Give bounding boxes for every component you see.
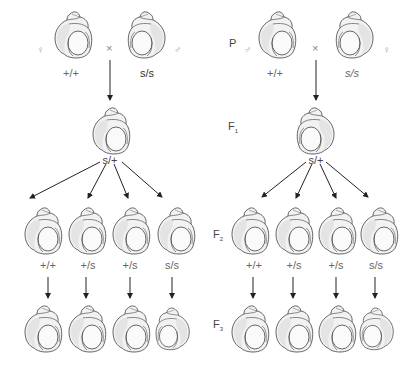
right-f2-genotype-2: +/s — [276, 259, 312, 271]
right-f2-genotype-4: s/s — [358, 259, 394, 271]
left-f3-shell-4-sinistral — [154, 302, 192, 354]
generation-label-f3: F3 — [213, 318, 223, 332]
generation-label-f1: F1 — [228, 120, 238, 134]
right-parent-female-shell-sinistral — [334, 8, 376, 60]
right-f1-genotype: s/+ — [298, 154, 334, 166]
left-f2-shell-1 — [22, 204, 64, 256]
left-f2-genotype-4: s/s — [154, 259, 190, 271]
left-f1-shell-dextral — [90, 104, 132, 156]
generation-label-p: P — [229, 37, 236, 49]
right-f3-shell-3 — [316, 302, 358, 354]
right-f3-shell-4-sinistral — [358, 302, 396, 354]
right-f2-shell-1 — [229, 204, 271, 256]
female-symbol: ♀ — [37, 44, 45, 55]
right-f2-genotype-3: +/s — [318, 259, 354, 271]
male-symbol: ♂ — [174, 44, 182, 55]
right-f3-shell-1 — [229, 302, 271, 354]
right-f2-shell-4 — [358, 204, 400, 256]
left-f2-shell-3 — [110, 204, 152, 256]
right-f2-genotype-1: +/+ — [236, 259, 272, 271]
left-f2-shell-2 — [66, 204, 108, 256]
right-parent-male-shell-dextral — [256, 8, 298, 60]
left-f2-shell-4 — [155, 204, 197, 256]
cross-symbol: × — [106, 42, 112, 54]
right-f2-shell-3 — [316, 204, 358, 256]
left-f3-shell-3 — [110, 302, 152, 354]
right-f3-shell-2 — [273, 302, 315, 354]
right-parent-male-genotype: +/+ — [256, 67, 294, 79]
left-parent-female-genotype: +/+ — [52, 67, 90, 79]
left-f3-shell-1 — [22, 302, 64, 354]
male-symbol: ♂ — [244, 44, 252, 55]
left-f2-genotype-2: +/s — [70, 259, 106, 271]
cross-symbol: × — [312, 42, 318, 54]
right-parent-female-genotype: s/s — [332, 67, 372, 79]
left-f2-genotype-3: +/s — [112, 259, 148, 271]
right-f1-shell-sinistral — [295, 104, 337, 156]
generation-label-f2: F2 — [213, 228, 223, 242]
female-symbol: ♀ — [383, 44, 391, 55]
left-f3-shell-2 — [66, 302, 108, 354]
left-parent-male-genotype: s/s — [126, 67, 168, 79]
left-f2-genotype-1: +/+ — [30, 259, 66, 271]
left-parent-male-shell-sinistral — [126, 8, 168, 60]
left-f1-genotype: s/+ — [92, 154, 128, 166]
left-parent-female-shell-dextral — [52, 8, 94, 60]
right-f2-shell-2 — [273, 204, 315, 256]
